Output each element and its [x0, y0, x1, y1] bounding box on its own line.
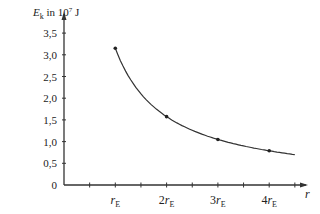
data-point [216, 138, 220, 142]
x-tick-label: 2rE [159, 193, 175, 209]
data-point [114, 46, 118, 50]
energy-curve [115, 48, 294, 154]
kinetic-energy-chart: 00,51,01,52,02,53,03,5rE2rE3rE4rErEk in … [0, 0, 320, 214]
x-tick-label: 4rE [261, 193, 277, 209]
y-tick-label: 1,0 [43, 136, 57, 148]
data-point [165, 115, 169, 119]
y-tick-label: 0,5 [43, 157, 57, 169]
y-tick-label: 3,0 [43, 49, 57, 61]
data-point [267, 149, 271, 153]
y-tick-label: 3,5 [43, 27, 57, 39]
x-tick-label: 3rE [210, 193, 226, 209]
x-axis-label: r [305, 187, 310, 201]
x-tick-label: rE [111, 193, 121, 209]
y-tick-label: 2,0 [43, 92, 57, 104]
y-tick-label: 1,5 [43, 114, 57, 126]
y-axis-label: Ek in 107 J [32, 6, 80, 21]
y-tick-label: 2,5 [43, 71, 57, 83]
y-tick-label: 0 [52, 179, 58, 191]
